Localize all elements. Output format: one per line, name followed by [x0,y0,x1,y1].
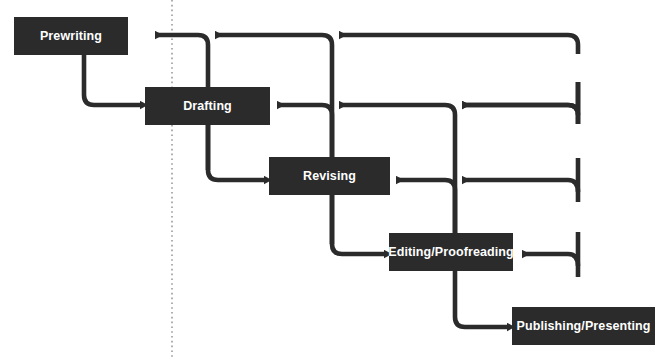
node-revising[interactable]: Revising [269,157,390,195]
node-prewriting-label: Prewriting [40,29,102,43]
connector-editing-to-prewriting [215,35,332,244]
connector-publishing-to-revising-bend [462,180,578,192]
connector-editing-to-publishing [455,271,507,327]
node-editing[interactable]: Editing/Proofreading [389,233,513,271]
connector-drafting-to-revising [208,125,264,180]
connector-publishing-to-drafting-bend [462,105,578,115]
node-drafting[interactable]: Drafting [145,87,270,125]
connector-publishing-to-prewriting [339,35,578,54]
node-editing-label: Editing/Proofreading [388,245,514,259]
connector-prewriting-to-drafting [84,55,140,105]
connector-publishing-to-editing-bend [522,254,578,266]
node-prewriting[interactable]: Prewriting [14,17,128,55]
node-drafting-label: Drafting [183,99,232,113]
node-publishing[interactable]: Publishing/Presenting [512,307,655,345]
diagram-canvas: Prewriting Drafting Revising Editing/Pro… [0,0,662,358]
node-revising-label: Revising [303,169,356,183]
connector-revising-to-editing [332,195,384,254]
node-publishing-label: Publishing/Presenting [516,319,650,333]
